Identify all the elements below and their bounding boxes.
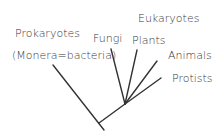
label-fungi: Fungi	[93, 32, 122, 45]
label-monera: (Monera=bacteria)	[12, 49, 116, 62]
eukaryote-stem	[99, 104, 125, 123]
prokaryote-branch	[53, 65, 104, 130]
label-protists: Protists	[172, 72, 213, 85]
tree-of-life-diagram: Prokaryotes (Monera=bacteria) Eukaryotes…	[0, 0, 215, 138]
label-plants: Plants	[132, 34, 165, 47]
label-eukaryotes: Eukaryotes	[138, 12, 199, 25]
tree-svg: Prokaryotes (Monera=bacteria) Eukaryotes…	[0, 0, 215, 138]
label-prokaryotes: Prokaryotes	[15, 27, 80, 40]
label-animals: Animals	[168, 49, 212, 62]
